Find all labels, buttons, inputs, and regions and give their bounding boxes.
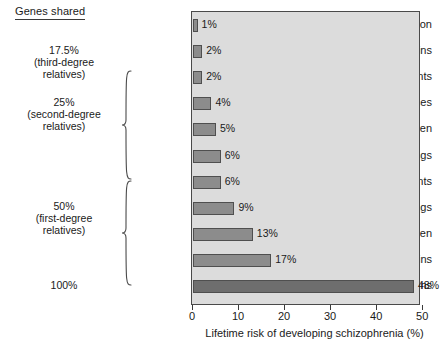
bar (193, 176, 221, 189)
group-label-third-degree: 17.5%(third-degreerelatives) (5, 44, 123, 81)
genes-shared-header: Genes shared (15, 5, 85, 20)
bar-value-label: 13% (257, 227, 278, 240)
bar (193, 202, 234, 215)
x-axis-title: Lifetime risk of developing schizophreni… (191, 327, 438, 340)
brace-first-degree (121, 180, 132, 286)
bar (193, 123, 216, 136)
bar-value-label: 5% (220, 122, 235, 135)
group-label-line: relatives) (5, 120, 123, 132)
group-label-line: 17.5% (5, 44, 123, 56)
bar-value-label: 1% (202, 18, 217, 31)
group-label-line: (third-degree (5, 56, 123, 68)
group-label-line: 50% (5, 200, 123, 212)
bar (193, 280, 414, 293)
group-label-line: 100% (5, 279, 123, 291)
x-axis-tick-label: 40 (356, 310, 396, 323)
bar (193, 150, 221, 163)
bar (193, 254, 271, 267)
x-axis-tick-label: 30 (310, 310, 350, 323)
bar-value-label: 17% (275, 253, 296, 266)
bar-value-label: 6% (225, 149, 240, 162)
x-axis-tick-label: 10 (218, 310, 258, 323)
group-label-line: relatives) (5, 68, 123, 80)
bar (193, 228, 253, 241)
bar (193, 97, 211, 110)
group-label-line: 25% (5, 96, 123, 108)
group-label-second-degree: 25%(second-degreerelatives) (5, 96, 123, 133)
bar-value-label: 9% (238, 201, 253, 214)
bar-value-label: 4% (215, 96, 230, 109)
x-axis-tick-label: 20 (264, 310, 304, 323)
group-label-line: (second-degree (5, 108, 123, 120)
x-axis-tick-label: 50 (402, 310, 442, 323)
bar-value-label: 2% (206, 70, 221, 83)
group-label-line: (first-degree (5, 212, 123, 224)
group-label-first-degree: 50%(first-degreerelatives) (5, 200, 123, 237)
bar-value-label: 48% (418, 279, 439, 292)
bar (193, 45, 202, 58)
group-label-identical: 100% (5, 279, 123, 291)
x-axis-tick-label: 0 (172, 310, 212, 323)
bar (193, 71, 202, 84)
bar-value-label: 6% (225, 175, 240, 188)
bar-value-label: 2% (206, 44, 221, 57)
brace-second-degree (121, 70, 132, 180)
group-label-line: relatives) (5, 224, 123, 236)
bar (193, 19, 198, 32)
